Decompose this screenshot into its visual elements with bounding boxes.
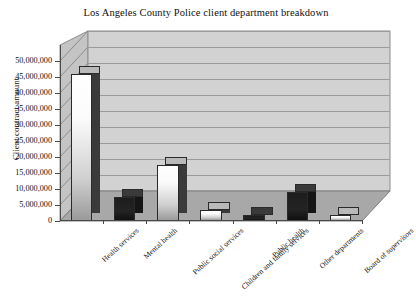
- bar-top-3d: [208, 202, 230, 210]
- y-axis-line: [60, 45, 61, 221]
- y-tick-mark: [55, 221, 60, 222]
- bar: [114, 189, 136, 221]
- bar-side-3d: [179, 157, 187, 213]
- x-tick-mark: [362, 220, 363, 224]
- bar: [200, 202, 222, 221]
- y-tick-label: 0: [0, 216, 52, 225]
- gridline: [88, 47, 390, 48]
- gridline: [88, 31, 390, 32]
- bar: [330, 207, 352, 221]
- bar-face: [114, 197, 136, 221]
- bar: [287, 184, 309, 221]
- y-tick-label: 50,000,000: [0, 56, 52, 65]
- bar: [243, 207, 265, 221]
- bar: [71, 66, 93, 221]
- y-tick-label: 20,000,000: [0, 152, 52, 161]
- gridline: [88, 63, 390, 64]
- gridline: [88, 79, 390, 80]
- bar-top-3d: [165, 157, 187, 165]
- y-tick-label: 5,000,000: [0, 200, 52, 209]
- bar: [157, 157, 179, 221]
- y-tick-label: 15,000,000: [0, 168, 52, 177]
- bar-side-3d: [92, 66, 100, 213]
- bar-top-3d: [295, 184, 317, 192]
- y-tick-label: 30,000,000: [0, 120, 52, 129]
- y-tick-label: 45,000,000: [0, 72, 52, 81]
- bar-top-3d: [338, 207, 360, 215]
- bar-face: [71, 74, 93, 221]
- bar-top-3d: [79, 66, 101, 74]
- x-axis-line: [60, 220, 362, 221]
- gridline: [88, 159, 390, 160]
- bar-top-3d: [251, 207, 273, 215]
- y-tick-label: 10,000,000: [0, 184, 52, 193]
- gridline: [88, 175, 390, 176]
- bar-top-3d: [122, 189, 144, 197]
- gridline: [88, 127, 390, 128]
- bar-face: [287, 192, 309, 221]
- bar-face: [157, 165, 179, 221]
- y-tick-label: 25,000,000: [0, 136, 52, 145]
- y-tick-label: 40,000,000: [0, 88, 52, 97]
- gridline: [88, 95, 390, 96]
- y-tick-label: 35,000,000: [0, 104, 52, 113]
- gridline: [88, 143, 390, 144]
- gridline: [88, 111, 390, 112]
